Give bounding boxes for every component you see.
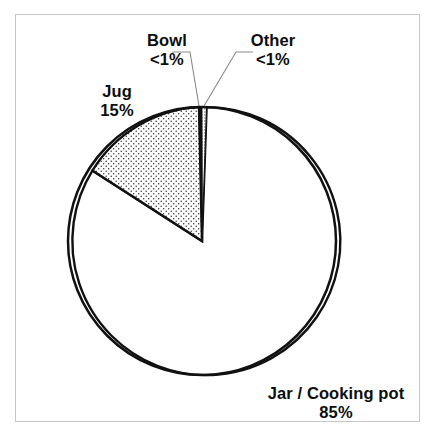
slice-label-other: Other <1% <box>238 31 308 69</box>
slice-label-jar-cooking-pot: Jar / Cooking pot 85% <box>250 384 422 422</box>
slice-label-other-value: <1% <box>238 50 308 69</box>
slice-label-jug-value: 15% <box>78 101 156 120</box>
slice-label-bowl: Bowl <1% <box>136 31 198 69</box>
pie-chart-figure: Jug 15% Bowl <1% Other <1% Jar / Cooking… <box>0 0 435 443</box>
slice-label-jug: Jug 15% <box>78 82 156 120</box>
slice-label-bowl-name: Bowl <box>136 31 198 50</box>
pie-chart-graphic <box>0 0 435 443</box>
slice-label-jar-cooking-pot-name: Jar / Cooking pot <box>250 384 422 403</box>
slice-label-jar-cooking-pot-value: 85% <box>250 403 422 422</box>
slice-label-other-name: Other <box>238 31 308 50</box>
slice-label-bowl-value: <1% <box>136 50 198 69</box>
slice-label-jug-name: Jug <box>78 82 156 101</box>
